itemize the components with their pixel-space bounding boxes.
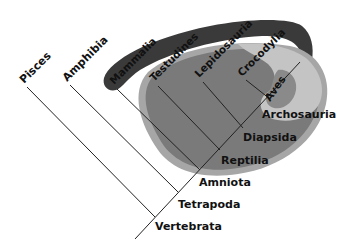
label-pisces: Pisces — [17, 49, 54, 86]
label-archosauria: Archosauria — [262, 108, 336, 121]
label-vertebrata: Vertebrata — [155, 220, 222, 233]
label-diapsida: Diapsida — [243, 131, 297, 144]
label-amphibia: Amphibia — [60, 34, 111, 85]
label-amniota: Amniota — [199, 176, 251, 189]
cladogram-diagram: Pisces Amphibia Mammalia Testudines Lepi… — [0, 0, 338, 251]
label-reptilia: Reptilia — [221, 154, 269, 167]
label-tetrapoda: Tetrapoda — [178, 198, 240, 211]
